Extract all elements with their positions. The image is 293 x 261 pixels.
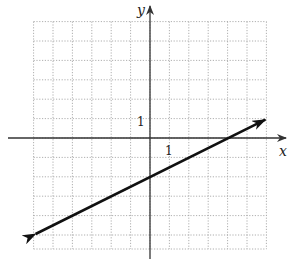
y-tick-label: 1: [137, 115, 145, 129]
y-axis-label: y: [136, 2, 146, 18]
coordinate-plane: y x 1 1: [0, 0, 293, 261]
x-tick-label: 1: [165, 144, 173, 158]
x-axis-label: x: [279, 143, 287, 159]
